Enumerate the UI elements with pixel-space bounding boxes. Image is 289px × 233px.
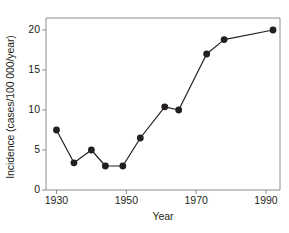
data-point-marker [203, 51, 210, 58]
data-point-marker [71, 159, 78, 166]
series-markers [53, 27, 276, 170]
x-axis-ticks [56, 190, 266, 194]
chart-figure: Incidence (cases/100 000/year) 05101520 … [0, 0, 289, 233]
data-point-marker [102, 163, 109, 170]
data-point-marker [53, 127, 60, 134]
data-point-marker [88, 147, 95, 154]
data-point-marker [137, 135, 144, 142]
x-axis-title: Year [46, 210, 280, 222]
data-point-marker [175, 107, 182, 114]
plot-area [0, 0, 289, 233]
data-point-marker [119, 163, 126, 170]
data-point-marker [161, 103, 168, 110]
data-point-marker [221, 36, 228, 43]
series-line [56, 30, 273, 166]
y-axis-ticks [42, 30, 46, 190]
data-point-marker [270, 27, 277, 34]
